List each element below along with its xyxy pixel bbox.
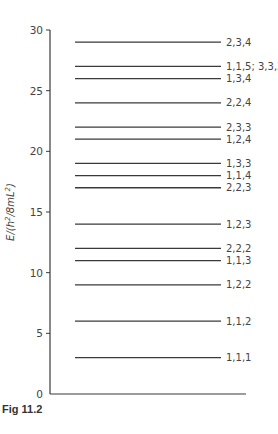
energy-level: 1,1,2 [75, 316, 251, 327]
energy-level-label: 2,3,4 [226, 37, 251, 48]
energy-level-label: 1,2,3 [226, 219, 251, 230]
energy-level: 1,1,1 [75, 352, 251, 363]
energy-level-chart: 051015202530 1,1,11,1,21,2,21,1,32,2,21,… [0, 0, 278, 434]
y-tick-label: 0 [36, 388, 43, 400]
energy-level: 1,2,4 [75, 134, 251, 145]
y-tick-label: 30 [30, 24, 43, 36]
y-tick-label: 10 [30, 267, 43, 279]
energy-level-label: 1,3,3 [226, 158, 251, 169]
energy-level-label: 1,1,5; 3,3,3 [226, 61, 278, 72]
energy-level: 1,1,5; 3,3,3 [75, 61, 278, 72]
figure-caption: Fig 11.2 [2, 403, 42, 415]
energy-level: 1,3,4 [75, 73, 251, 84]
energy-level-label: 1,1,4 [226, 170, 251, 181]
energy-levels: 1,1,11,1,21,2,21,1,32,2,21,2,32,2,31,1,4… [75, 37, 278, 363]
energy-level-label: 1,3,4 [226, 73, 251, 84]
energy-level: 1,3,3 [75, 158, 251, 169]
y-tick-label: 25 [30, 85, 43, 97]
energy-level-label: 1,2,4 [226, 134, 251, 145]
y-axis [50, 30, 246, 394]
energy-level: 1,2,2 [75, 279, 251, 290]
energy-level: 1,2,3 [75, 219, 251, 230]
energy-level: 2,2,2 [75, 243, 251, 254]
energy-level-label: 2,2,4 [226, 97, 251, 108]
energy-level: 1,1,4 [75, 170, 251, 181]
y-axis-title: E/(h2/8mL2) [4, 183, 16, 241]
energy-level: 1,1,3 [75, 255, 251, 266]
energy-level-label: 1,1,3 [226, 255, 251, 266]
energy-level-label: 2,3,3 [226, 122, 251, 133]
energy-level: 2,3,3 [75, 122, 251, 133]
energy-level: 2,3,4 [75, 37, 251, 48]
y-axis-ticks: 051015202530 [30, 24, 50, 400]
y-tick-label: 15 [30, 206, 43, 218]
energy-level: 2,2,4 [75, 97, 251, 108]
energy-level-label: 2,2,3 [226, 182, 251, 193]
energy-level-label: 1,2,2 [226, 279, 251, 290]
y-tick-label: 20 [30, 145, 43, 157]
energy-level: 2,2,3 [75, 182, 251, 193]
energy-level-label: 1,1,2 [226, 316, 251, 327]
energy-level-label: 2,2,2 [226, 243, 251, 254]
y-tick-label: 5 [36, 327, 43, 339]
energy-level-label: 1,1,1 [226, 352, 251, 363]
